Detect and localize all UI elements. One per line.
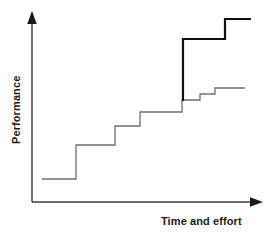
series-upper-branch <box>183 19 251 101</box>
arrow-up-icon <box>27 11 37 24</box>
step-chart-plot <box>0 0 272 238</box>
x-axis-label: Time and effort <box>161 216 242 227</box>
arrow-right-icon <box>250 197 263 207</box>
y-axis-label: Performance <box>11 14 25 144</box>
series-lower-branch <box>183 88 245 100</box>
series-common-path <box>42 100 183 179</box>
chart-figure: Performance Time and effort <box>0 0 272 238</box>
